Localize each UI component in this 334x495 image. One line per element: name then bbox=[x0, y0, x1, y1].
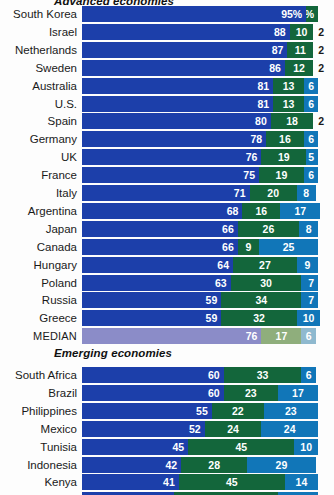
bar-segment-3: 24 bbox=[261, 421, 318, 437]
segment-value: 11 bbox=[287, 42, 313, 58]
bar-segment-1: 66 bbox=[82, 221, 238, 237]
segment-value: 33 bbox=[224, 367, 302, 383]
bar-segment-3: 8 bbox=[299, 221, 318, 237]
chart-row: Brazil602317 bbox=[0, 385, 334, 401]
bar-segment-1: 78 bbox=[82, 131, 266, 147]
chart-canvas: Advanced economiesSouth Korea95%5%Israel… bbox=[0, 0, 334, 495]
bar-segment-1: 86 bbox=[82, 60, 285, 76]
segment-value: 17 bbox=[261, 328, 301, 344]
segment-value: 34 bbox=[221, 292, 301, 308]
segment-value: 19 bbox=[261, 149, 306, 165]
segment-value: 42 bbox=[165, 457, 177, 473]
segment-value: 12 bbox=[285, 60, 313, 76]
bar-segment-2: 9 bbox=[238, 239, 259, 255]
bar-segment-1: 76 bbox=[82, 328, 261, 344]
segment-value: 5% bbox=[306, 6, 314, 22]
outside-value: 2 bbox=[318, 24, 324, 40]
bar-segment-2: 16 bbox=[242, 203, 280, 219]
stacked-bar: 78166 bbox=[82, 131, 318, 147]
segment-value: 22 bbox=[212, 403, 264, 419]
row-label: Mexico bbox=[0, 421, 77, 437]
chart-row: Netherlands87112 bbox=[0, 42, 334, 58]
bar-segment-3: 25 bbox=[259, 239, 318, 255]
segment-value: 23 bbox=[224, 385, 278, 401]
segment-value: 16 bbox=[266, 131, 304, 147]
outside-value: 2 bbox=[318, 60, 324, 76]
stacked-bar: 593210 bbox=[82, 310, 320, 326]
row-label: Spain bbox=[0, 113, 77, 129]
stacked-bar: 66925 bbox=[82, 239, 318, 255]
bar-segment-3: 5 bbox=[306, 149, 318, 165]
bar-segment-3: 8 bbox=[297, 185, 316, 201]
bar-segment-1: 59 bbox=[82, 310, 221, 326]
bar-segment-2: 11 bbox=[287, 42, 313, 58]
bar-segment-1: 41 bbox=[82, 474, 179, 490]
chart-row: Italy71208 bbox=[0, 185, 334, 201]
segment-value: 8 bbox=[297, 185, 316, 201]
stacked-bar: 59347 bbox=[82, 292, 318, 308]
chart-row: South Korea95%5% bbox=[0, 6, 334, 22]
segment-value: 19 bbox=[259, 167, 304, 183]
segment-value: 71 bbox=[234, 185, 246, 201]
bar-segment-2: 13 bbox=[273, 96, 304, 112]
bar-segment-1: 80 bbox=[82, 113, 271, 129]
segment-value: 9 bbox=[297, 257, 318, 273]
bar-segment-1: 81 bbox=[82, 78, 273, 94]
row-label: MEDIAN bbox=[0, 328, 77, 344]
bar-segment-3: 6 bbox=[301, 367, 315, 383]
bar-segment-1: 42 bbox=[82, 457, 181, 473]
bar-segment-3: 17 bbox=[280, 203, 320, 219]
bar-segment-2: 45 bbox=[188, 439, 294, 455]
bar-segment-1: 63 bbox=[82, 275, 231, 291]
stacked-bar: 76176 bbox=[82, 328, 316, 344]
chart-row: Canada66925 bbox=[0, 239, 334, 255]
bar-segment-3: 29 bbox=[247, 457, 315, 473]
row-label: Russia bbox=[0, 292, 77, 308]
bar-segment-2: 23 bbox=[224, 385, 278, 401]
bar-segment-3: 7 bbox=[301, 275, 318, 291]
bar-segment-3: 6 bbox=[304, 131, 318, 147]
stacked-bar: 8810 bbox=[82, 24, 313, 40]
segment-value: 80 bbox=[255, 113, 267, 129]
segment-value: 17 bbox=[280, 203, 320, 219]
segment-value: 60 bbox=[208, 385, 220, 401]
chart-row: Russia59347 bbox=[0, 292, 334, 308]
row-label: Netherlands bbox=[0, 42, 77, 58]
bar-segment-2: 32 bbox=[221, 310, 297, 326]
segment-value: 32 bbox=[221, 310, 297, 326]
bar-segment-2: 30 bbox=[231, 275, 302, 291]
segment-value: 78 bbox=[250, 131, 262, 147]
stacked-bar: 602317 bbox=[82, 385, 318, 401]
bar-segment-3: 14 bbox=[285, 474, 318, 490]
segment-value: 45 bbox=[173, 439, 185, 455]
stacked-bar: 8612 bbox=[82, 60, 313, 76]
row-label: South Korea bbox=[0, 6, 77, 22]
bar-segment-3: 10 bbox=[294, 439, 318, 455]
chart-row: Indonesia422829 bbox=[0, 457, 334, 473]
stacked-bar: 75196 bbox=[82, 167, 318, 183]
bar-segment-2: 10 bbox=[290, 24, 314, 40]
chart-row: Japan66268 bbox=[0, 221, 334, 237]
row-label: South Africa bbox=[0, 367, 77, 383]
chart-row: Hungary64279 bbox=[0, 257, 334, 273]
bar-segment-2: 45 bbox=[179, 474, 285, 490]
outside-value: 2 bbox=[318, 113, 324, 129]
segment-value: 68 bbox=[227, 203, 239, 219]
bar-segment-1: 88 bbox=[82, 24, 290, 40]
segment-value: 10 bbox=[290, 24, 314, 40]
row-label: UK bbox=[0, 149, 77, 165]
segment-value: 6 bbox=[308, 131, 314, 147]
bar-segment-2: 20 bbox=[250, 185, 297, 201]
segment-value: 23 bbox=[264, 403, 318, 419]
segment-value: 30 bbox=[231, 275, 302, 291]
segment-value: 60 bbox=[208, 367, 220, 383]
row-label: Indonesia bbox=[0, 457, 77, 473]
chart-row: Poland63307 bbox=[0, 275, 334, 291]
section-header-2: Emerging economies bbox=[54, 347, 172, 359]
segment-value: 87 bbox=[272, 42, 284, 58]
bar-segment-3: 6 bbox=[304, 167, 318, 183]
segment-value: 9 bbox=[238, 239, 259, 255]
bar-segment-2: 26 bbox=[238, 221, 299, 237]
chart-row: U.S.81136 bbox=[0, 96, 334, 112]
row-label: Japan bbox=[0, 221, 77, 237]
